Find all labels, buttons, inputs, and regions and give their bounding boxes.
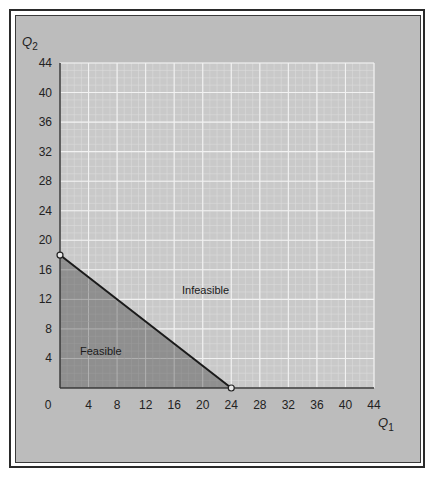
x-tick-label: 4	[85, 398, 92, 412]
x-tick-label: 24	[225, 398, 239, 412]
x-tick-labels: 048121620242832364044	[45, 398, 381, 412]
y-tick-label: 32	[39, 145, 53, 159]
x-tick-label: 36	[310, 398, 324, 412]
x-tick-label: 16	[168, 398, 182, 412]
y-tick-label: 16	[39, 263, 53, 277]
y-tick-label: 40	[39, 86, 53, 100]
feasible-label: Feasible	[80, 345, 122, 357]
y-tick-label: 24	[39, 204, 53, 218]
x-tick-label: 28	[253, 398, 267, 412]
y-tick-label: 4	[45, 351, 52, 365]
x-tick-label: 12	[139, 398, 153, 412]
infeasible-label: Infeasible	[182, 284, 229, 296]
x-tick-label: 40	[339, 398, 353, 412]
chart-svg: 048121620242832364044 481216202428323640…	[0, 0, 435, 480]
y-tick-label: 36	[39, 115, 53, 129]
x-axis-label: Q1	[378, 415, 394, 433]
y-tick-label: 44	[39, 56, 53, 70]
y-tick-label: 12	[39, 292, 53, 306]
y-tick-labels: 48121620242832364044	[39, 56, 53, 365]
x-tick-label: 8	[114, 398, 121, 412]
y-tick-label: 28	[39, 174, 53, 188]
y-axis-label: Q2	[22, 34, 38, 52]
x-tick-label: 32	[282, 398, 296, 412]
vertex-point	[228, 385, 234, 391]
x-tick-label: 0	[45, 398, 52, 412]
vertex-point	[57, 252, 63, 258]
x-tick-label: 44	[367, 398, 381, 412]
y-tick-label: 20	[39, 233, 53, 247]
y-tick-label: 8	[45, 322, 52, 336]
x-tick-label: 20	[196, 398, 210, 412]
